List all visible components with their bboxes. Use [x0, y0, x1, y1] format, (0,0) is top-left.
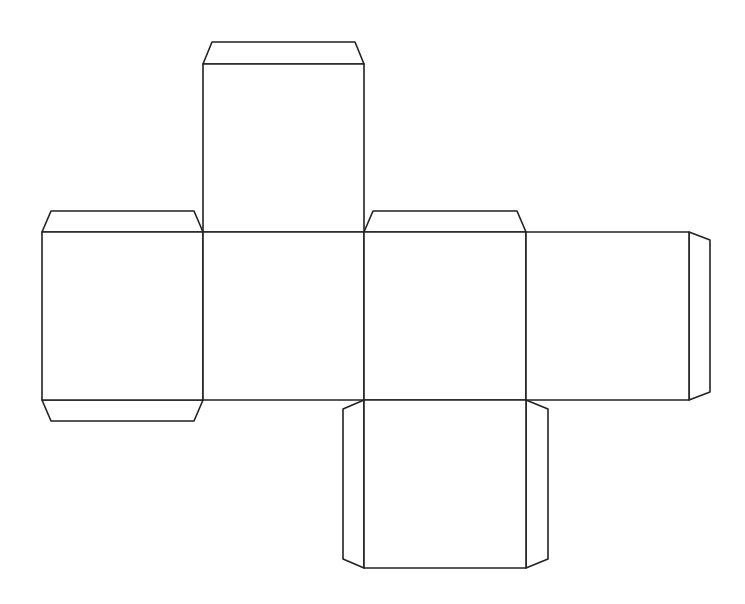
face-bottom — [364, 400, 526, 568]
face-front — [203, 232, 364, 400]
tab-left-face-bottom — [42, 400, 203, 421]
tab-back-face-right — [689, 232, 710, 400]
tab-top-face-top — [203, 42, 364, 64]
face-left — [42, 232, 203, 400]
cube-net-diagram — [0, 0, 745, 604]
face-right — [364, 232, 526, 400]
tab-right-face-top — [364, 211, 526, 232]
tab-bottom-face-left — [343, 400, 364, 568]
face-back — [526, 232, 689, 400]
cube-faces — [42, 64, 689, 568]
tab-bottom-face-right — [526, 400, 548, 568]
tab-left-face-top — [42, 211, 203, 232]
cube-net-svg — [0, 0, 745, 604]
face-top — [203, 64, 364, 232]
